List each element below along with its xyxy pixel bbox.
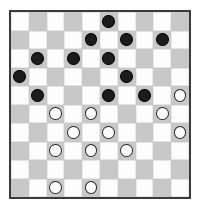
board-square-c5[interactable] (47, 105, 65, 124)
board-square-a5[interactable] (11, 105, 29, 124)
board-square-d2[interactable] (64, 160, 82, 179)
board-square-b10[interactable] (29, 12, 47, 31)
board-square-b5[interactable] (29, 105, 47, 124)
board-square-b6[interactable] (29, 86, 47, 105)
board-square-h7[interactable] (136, 68, 154, 87)
board-square-g4[interactable] (118, 123, 136, 142)
board-square-i2[interactable] (153, 160, 171, 179)
board-square-c4[interactable] (47, 123, 65, 142)
board-square-f4[interactable] (100, 123, 118, 142)
board-square-a1[interactable] (11, 179, 29, 198)
board-square-f1[interactable] (100, 179, 118, 198)
board-square-b1[interactable] (29, 179, 47, 198)
board-square-d9[interactable] (64, 31, 82, 50)
board-square-b9[interactable] (29, 31, 47, 50)
board-square-a10[interactable] (11, 12, 29, 31)
board-square-d8[interactable] (64, 49, 82, 68)
board-square-h1[interactable] (136, 179, 154, 198)
white-piece[interactable] (174, 126, 187, 139)
board-square-i7[interactable] (153, 68, 171, 87)
white-piece[interactable] (49, 181, 62, 194)
board-square-h2[interactable] (136, 160, 154, 179)
board-square-f8[interactable] (100, 49, 118, 68)
board-square-h9[interactable] (136, 31, 154, 50)
board-square-d1[interactable] (64, 179, 82, 198)
board-square-j9[interactable] (171, 31, 189, 50)
board-square-a6[interactable] (11, 86, 29, 105)
board-square-i1[interactable] (153, 179, 171, 198)
board-square-e1[interactable] (82, 179, 100, 198)
board-square-e9[interactable] (82, 31, 100, 50)
black-piece[interactable] (138, 89, 151, 102)
board-square-d5[interactable] (64, 105, 82, 124)
board-square-c6[interactable] (47, 86, 65, 105)
board-square-i3[interactable] (153, 142, 171, 161)
board-square-a9[interactable] (11, 31, 29, 50)
board-square-f3[interactable] (100, 142, 118, 161)
board-square-a7[interactable] (11, 68, 29, 87)
board-square-d6[interactable] (64, 86, 82, 105)
board-square-f5[interactable] (100, 105, 118, 124)
board-square-f9[interactable] (100, 31, 118, 50)
board-square-b2[interactable] (29, 160, 47, 179)
white-piece[interactable] (49, 107, 62, 120)
white-piece[interactable] (85, 181, 98, 194)
black-piece[interactable] (31, 89, 44, 102)
board-square-i9[interactable] (153, 31, 171, 50)
board-square-g5[interactable] (118, 105, 136, 124)
board-square-d4[interactable] (64, 123, 82, 142)
board-square-i5[interactable] (153, 105, 171, 124)
board-square-j1[interactable] (171, 179, 189, 198)
board-square-j8[interactable] (171, 49, 189, 68)
white-piece[interactable] (85, 107, 98, 120)
board-square-g7[interactable] (118, 68, 136, 87)
board-square-b7[interactable] (29, 68, 47, 87)
board-square-j2[interactable] (171, 160, 189, 179)
board-square-g3[interactable] (118, 142, 136, 161)
board-square-a4[interactable] (11, 123, 29, 142)
black-piece[interactable] (156, 33, 169, 46)
black-piece[interactable] (31, 52, 44, 65)
black-piece[interactable] (67, 52, 80, 65)
board-square-j6[interactable] (171, 86, 189, 105)
board-square-h3[interactable] (136, 142, 154, 161)
board-square-b4[interactable] (29, 123, 47, 142)
board-square-e3[interactable] (82, 142, 100, 161)
board-square-d10[interactable] (64, 12, 82, 31)
board-square-c9[interactable] (47, 31, 65, 50)
board-square-c8[interactable] (47, 49, 65, 68)
black-piece[interactable] (120, 70, 133, 83)
board-square-g9[interactable] (118, 31, 136, 50)
board-square-i8[interactable] (153, 49, 171, 68)
board-square-g8[interactable] (118, 49, 136, 68)
board-square-h6[interactable] (136, 86, 154, 105)
board-square-i6[interactable] (153, 86, 171, 105)
board-square-d3[interactable] (64, 142, 82, 161)
board-square-e6[interactable] (82, 86, 100, 105)
board-square-j5[interactable] (171, 105, 189, 124)
white-piece[interactable] (174, 89, 187, 102)
board-square-b8[interactable] (29, 49, 47, 68)
board-square-g6[interactable] (118, 86, 136, 105)
board-square-c1[interactable] (47, 179, 65, 198)
white-piece[interactable] (49, 144, 62, 157)
board-square-e10[interactable] (82, 12, 100, 31)
board-square-i10[interactable] (153, 12, 171, 31)
black-piece[interactable] (85, 33, 98, 46)
board-square-e8[interactable] (82, 49, 100, 68)
board-square-f2[interactable] (100, 160, 118, 179)
board-square-h8[interactable] (136, 49, 154, 68)
board-square-e2[interactable] (82, 160, 100, 179)
board-square-a2[interactable] (11, 160, 29, 179)
board-square-g2[interactable] (118, 160, 136, 179)
black-piece[interactable] (102, 52, 115, 65)
board-square-c7[interactable] (47, 68, 65, 87)
board-square-j7[interactable] (171, 68, 189, 87)
board-square-e5[interactable] (82, 105, 100, 124)
board-square-i4[interactable] (153, 123, 171, 142)
board-square-c3[interactable] (47, 142, 65, 161)
board-square-a3[interactable] (11, 142, 29, 161)
board-square-j10[interactable] (171, 12, 189, 31)
board-square-h4[interactable] (136, 123, 154, 142)
white-piece[interactable] (102, 126, 115, 139)
